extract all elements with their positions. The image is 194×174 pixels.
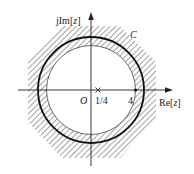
imag-axis-label: jIm[z] bbox=[55, 15, 80, 26]
hatched-region bbox=[0, 0, 194, 174]
real-axis-arrow-icon bbox=[165, 87, 173, 92]
dot-marker-icon bbox=[134, 88, 137, 91]
z-plane-diagram: jIm[z] Re[z] O 1/4 4 C bbox=[0, 0, 194, 174]
point-label-four: 4 bbox=[128, 95, 133, 106]
point-label-quarter: 1/4 bbox=[95, 95, 108, 106]
real-axis-label: Re[z] bbox=[159, 97, 181, 108]
contour-label: C bbox=[130, 29, 137, 40]
origin-label: O bbox=[80, 95, 87, 106]
imag-axis-arrow-icon bbox=[88, 12, 93, 20]
